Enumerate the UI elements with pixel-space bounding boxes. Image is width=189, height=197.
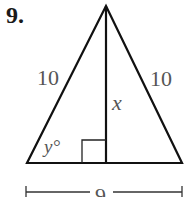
right-side-label: 10 — [150, 68, 172, 90]
figure: 9. 10 10 x y° 9 — [0, 0, 189, 197]
triangle-diagram — [0, 0, 189, 197]
altitude-label: x — [112, 92, 122, 114]
problem-number: 9. — [6, 2, 24, 29]
left-side-label: 10 — [37, 67, 59, 89]
angle-label: y° — [44, 137, 60, 156]
right-angle-marker — [82, 140, 106, 163]
base-label: 9 — [95, 185, 106, 197]
